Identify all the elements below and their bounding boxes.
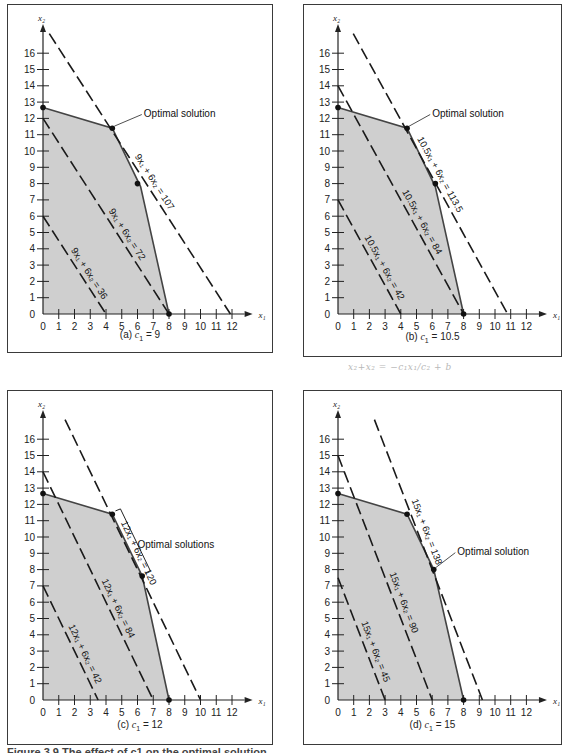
annotation-leader	[114, 115, 142, 127]
annotation-label: Optimal solution	[457, 546, 529, 557]
panel-caption: (d) c1 = 15	[304, 719, 561, 732]
y-tick-label: 4	[324, 629, 330, 640]
y-tick-label: 7	[324, 194, 330, 205]
y-tick-label: 7	[29, 580, 35, 591]
y-tick-label: 15	[24, 450, 36, 461]
y-tick-label: 0	[324, 309, 330, 320]
vertex-dot	[461, 697, 467, 703]
caption-prefix: (c)	[117, 719, 131, 730]
x-tick-label: 8	[166, 707, 172, 718]
x-tick-label: 4	[398, 707, 404, 718]
x-tick-label: 11	[506, 707, 517, 718]
x-axis-label: x₁	[258, 310, 266, 320]
vertex-dot	[139, 573, 145, 579]
y-tick-label: 9	[29, 162, 35, 173]
chart-panel-c: 0123456789101112012345678910111213141516…	[7, 390, 273, 745]
panel-caption: (c) c1 = 12	[8, 719, 272, 732]
y-tick-label: 11	[25, 129, 36, 140]
y-tick-label: 14	[24, 466, 36, 477]
vertex-dot	[404, 511, 410, 517]
y-tick-label: 13	[319, 483, 331, 494]
y-tick-label: 6	[324, 597, 330, 608]
y-tick-label: 15	[319, 450, 331, 461]
x-tick-label: 12	[226, 707, 238, 718]
y-tick-label: 11	[25, 515, 36, 526]
x-tick-label: 2	[367, 707, 373, 718]
x-tick-label: 5	[414, 707, 420, 718]
y-tick-label: 16	[319, 48, 331, 59]
y-tick-label: 6	[29, 597, 35, 608]
x-tick-label: 1	[56, 707, 62, 718]
y-tick-label: 0	[29, 309, 35, 320]
y-tick-label: 7	[29, 194, 35, 205]
y-tick-label: 12	[319, 113, 331, 124]
vertex-dot	[110, 511, 116, 517]
x-axis-arrow-icon	[245, 311, 253, 317]
annotation-label: Optimal solution	[432, 108, 504, 119]
y-tick-label: 6	[29, 211, 35, 222]
vertex-dot	[166, 311, 172, 317]
y-axis-label: x₂	[332, 399, 340, 409]
vertex-dot	[166, 697, 172, 703]
y-axis-arrow-icon	[40, 24, 46, 32]
vertex-dot	[404, 125, 410, 131]
y-tick-label: 3	[324, 646, 330, 657]
x-tick-label: 6	[135, 707, 141, 718]
x-tick-label: 12	[521, 707, 533, 718]
y-axis-label: x₂	[37, 399, 45, 409]
y-tick-label: 1	[324, 678, 330, 689]
annotation-label: Optimal solutions	[138, 539, 215, 550]
chart-panel-d: 0123456789101112012345678910111213141516…	[303, 390, 562, 745]
y-tick-label: 5	[324, 227, 330, 238]
x-tick-label: 2	[72, 707, 78, 718]
vertex-dot	[431, 567, 437, 573]
x-tick-label: 0	[40, 707, 46, 718]
y-tick-label: 10	[319, 532, 331, 543]
x-axis-label: x₁	[552, 310, 560, 320]
x-axis-arrow-icon	[539, 311, 547, 317]
y-tick-label: 8	[324, 178, 330, 189]
y-tick-label: 16	[24, 434, 36, 445]
y-tick-label: 2	[29, 662, 35, 673]
y-tick-label: 8	[29, 564, 35, 575]
x-axis-arrow-icon	[539, 697, 547, 703]
y-tick-label: 13	[319, 97, 331, 108]
y-axis-arrow-icon	[40, 410, 46, 418]
y-axis-label: x₂	[37, 13, 45, 23]
vertex-dot	[335, 491, 341, 497]
y-tick-label: 10	[24, 532, 36, 543]
y-tick-label: 2	[324, 662, 330, 673]
handwritten-note: x₂+x₂ = −c₁x₁/c₂ + b	[348, 363, 452, 372]
x-tick-label: 7	[150, 707, 156, 718]
vertex-dot	[40, 105, 46, 111]
y-tick-label: 4	[29, 629, 35, 640]
caption-value: = 15	[433, 719, 456, 730]
y-tick-label: 5	[29, 227, 35, 238]
vertex-dot	[110, 125, 116, 131]
y-tick-label: 13	[24, 97, 36, 108]
x-tick-label: 11	[211, 707, 222, 718]
x-tick-label: 9	[477, 707, 483, 718]
y-tick-label: 11	[320, 515, 331, 526]
y-tick-label: 3	[324, 260, 330, 271]
y-tick-label: 15	[319, 64, 331, 75]
x-tick-label: 3	[87, 707, 93, 718]
y-tick-label: 9	[324, 162, 330, 173]
caption-value: = 12	[140, 719, 163, 730]
x-tick-label: 9	[182, 707, 188, 718]
chart-plot: 0123456789101112012345678910111213141516…	[8, 5, 274, 354]
chart-plot: 0123456789101112012345678910111213141516…	[304, 5, 563, 358]
caption-prefix: (b)	[405, 331, 420, 342]
y-tick-label: 16	[24, 48, 36, 59]
y-tick-label: 15	[24, 64, 36, 75]
y-tick-label: 14	[319, 80, 331, 91]
caption-value: = 9	[143, 329, 160, 340]
x-tick-label: 1	[351, 707, 357, 718]
y-axis-arrow-icon	[335, 410, 341, 418]
x-tick-label: 8	[461, 707, 467, 718]
y-tick-label: 12	[319, 499, 331, 510]
chart-plot: 0123456789101112012345678910111213141516…	[8, 391, 274, 746]
y-tick-label: 13	[24, 483, 36, 494]
y-tick-label: 3	[29, 260, 35, 271]
y-tick-label: 5	[29, 613, 35, 624]
